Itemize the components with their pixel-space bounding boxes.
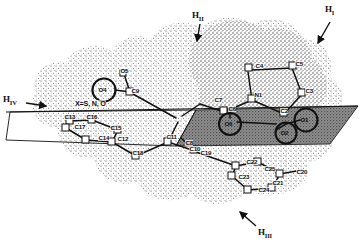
arrow-H-I [318, 22, 330, 43]
circled-atom-label-o1: O1 [300, 117, 309, 123]
atom-label-c10: C10 [189, 146, 201, 152]
atom-label-c16: C16 [86, 114, 98, 120]
atom-label-o5: O5 [120, 68, 129, 74]
hydrogen-label-h-i: HI [325, 5, 334, 16]
atom-label-c19: C19 [200, 150, 212, 156]
atom-label-c17: C17 [74, 124, 86, 130]
atom-label-c23: C23 [238, 174, 250, 180]
atom-label-n1: N1 [254, 92, 262, 98]
arrow-H-III [240, 212, 256, 226]
hydrogen-label-h-iv: HIV [3, 95, 17, 106]
circled-atom-label-o2: O2 [280, 130, 289, 136]
hydrogen-label-h-iii: HIII [258, 228, 272, 239]
atom-label-c2: C2 [280, 108, 288, 114]
atom-label-c14: C14 [98, 135, 110, 141]
hydrogen-label-h-ii: HII [192, 11, 203, 22]
atom-label-c18: C18 [132, 150, 144, 156]
molecular-diagram-svg [0, 0, 364, 246]
atom-label-c11: C11 [166, 134, 177, 140]
atom-label-c12: C12 [117, 136, 129, 142]
atom-label-c7: C7 [214, 97, 222, 103]
circled-atom-label-o4: O4 [98, 87, 107, 93]
circled-atom-label-o6: O6 [224, 121, 233, 127]
atom-label-c20: C20 [296, 169, 308, 175]
substituent-label: X=S, N, O [75, 100, 106, 107]
atom-label-c21: C21 [272, 180, 284, 186]
atom-label-c22: C22 [246, 159, 258, 165]
atom-label-c3: C3 [305, 88, 313, 94]
atom-label-c9: C9 [131, 88, 139, 94]
atom-label-c8: C8 [185, 140, 193, 146]
atom-label-c6: C6 [228, 106, 236, 112]
figure-canvas: O5C9C4C5C3N1C6C2C7C13C16C17C15C14C12C18C… [0, 0, 364, 246]
atom-label-c4: C4 [255, 63, 263, 69]
atom-label-c5: C5 [295, 61, 303, 67]
atom-label-c24: C24 [258, 187, 270, 193]
atom-label-c25: C25 [264, 166, 276, 172]
atom-label-c13: C13 [64, 114, 76, 120]
atom-label-c15: C15 [110, 125, 122, 131]
